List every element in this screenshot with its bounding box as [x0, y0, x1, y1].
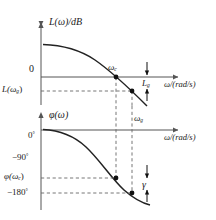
phase-panel: [38, 106, 178, 210]
phase-tick-zero: 0°: [28, 131, 35, 140]
magnitude-y-axis-label: L(ω)/dB: [49, 17, 82, 27]
phase-tick-minus180: −180°: [7, 188, 28, 197]
phase-at-crossover-tick: φ(ωc): [4, 172, 24, 182]
gain-level-tick-text: L(ω: [2, 84, 16, 94]
phase-tick-zero-deg: °: [33, 131, 35, 137]
phase-tick-minus90-deg: °: [26, 153, 28, 159]
magnitude-curve: [43, 45, 147, 106]
gain-level-tick-close: ): [19, 84, 22, 94]
phase-tick-minus90-text: −90: [12, 152, 26, 162]
bode-plot-figure: [0, 0, 216, 220]
phase-margin-label-text: γ: [142, 179, 146, 190]
crossover-frequency-label-sub: c: [114, 66, 116, 72]
phase-margin-label: γ: [142, 180, 146, 190]
marker-crossover-frequency: [114, 75, 119, 80]
gain-margin-label-sub: g: [147, 82, 150, 88]
phase-crossover-frequency-label-sub: g: [140, 117, 143, 123]
magnitude-x-axis-label-text: ω/(rad/s): [164, 79, 196, 89]
magnitude-y-axis-arrow: [38, 22, 43, 28]
phase-x-axis-label-text: ω/(rad/s): [164, 132, 196, 142]
phase-at-crossover-tick-text: φ(ω: [4, 171, 18, 181]
magnitude-y-axis-label-text: L(ω)/dB: [49, 16, 82, 27]
crossover-frequency-label: ωc: [108, 63, 117, 73]
marker-gain-margin-point: [130, 89, 135, 94]
phase-x-axis-label: ω/(rad/s): [164, 133, 196, 142]
gain-margin-label: Lg: [142, 79, 150, 89]
magnitude-x-axis-label: ω/(rad/s): [164, 80, 196, 89]
phase-y-axis-arrow: [38, 112, 43, 118]
phase-at-crossover-tick-close: ): [21, 171, 24, 181]
phase-crossover-frequency-label: ωg: [134, 114, 143, 124]
phase-tick-minus90: −90°: [12, 153, 28, 162]
gain-level-tick: L(ωg): [2, 85, 22, 95]
magnitude-zero-tick-text: 0: [29, 63, 34, 74]
phase-y-axis-label: φ(ω): [49, 110, 68, 120]
marker-phase-at-crossover: [114, 176, 119, 181]
phase-tick-minus180-text: −180: [7, 187, 26, 197]
phase-tick-minus180-deg: °: [26, 188, 28, 194]
marker-minus180-crossing: [130, 191, 135, 196]
magnitude-zero-tick: 0: [29, 64, 34, 74]
phase-y-axis-label-text: φ(ω): [49, 109, 68, 120]
